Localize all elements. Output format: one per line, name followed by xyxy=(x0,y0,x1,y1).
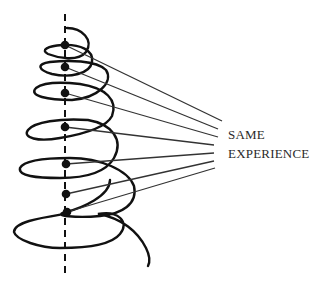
label-same: SAME xyxy=(228,127,265,143)
node-3 xyxy=(61,89,70,98)
node-5 xyxy=(62,160,71,169)
spiral-curve xyxy=(14,28,149,266)
spiral-diagram: SAME EXPERIENCE xyxy=(0,0,318,287)
node-4 xyxy=(61,123,70,132)
label-experience: EXPERIENCE xyxy=(228,146,309,162)
node-7 xyxy=(63,208,72,217)
spiral-diagram-svg xyxy=(0,0,318,287)
node-1 xyxy=(61,41,70,50)
experience-nodes xyxy=(61,41,72,217)
node-6 xyxy=(62,190,71,199)
node-2 xyxy=(61,63,70,72)
